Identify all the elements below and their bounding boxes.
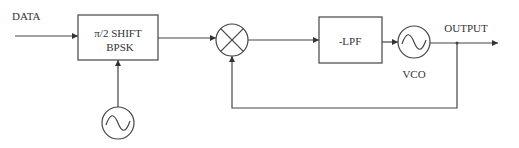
lpf-label: -LPF [339,35,362,47]
data-label: DATA [12,10,41,22]
output-label: OUTPUT [444,22,488,34]
vco-label: VCO [402,68,425,80]
bpsk-label-line1: π/2 SHIFT [94,27,142,39]
bpsk-label-line2: BPSK [106,41,134,53]
bpsk-pll-diagram: DATA π/2 SHIFT BPSK -LPF VCO OUTPUT [0,0,519,148]
